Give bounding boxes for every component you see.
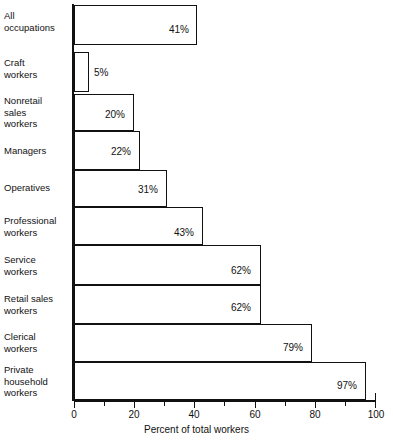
bar-craft-workers bbox=[74, 52, 89, 92]
category-label-retail-sales-workers: Retail sales workers bbox=[4, 293, 70, 316]
x-axis-tick-10 bbox=[104, 401, 105, 406]
x-axis-title: Percent of total workers bbox=[0, 424, 393, 435]
category-label-clerical-workers: Clerical workers bbox=[4, 331, 70, 354]
bar-value-clerical-workers: 79% bbox=[283, 343, 303, 353]
bar-value-managers: 22% bbox=[111, 147, 131, 157]
x-axis-tick-30 bbox=[164, 401, 165, 406]
bar-value-all-occupations: 41% bbox=[169, 25, 189, 35]
horizontal-bar-chart: All occupations Craft workers Nonretail … bbox=[0, 0, 393, 440]
category-label-private-household-workers: Private household workers bbox=[4, 364, 70, 399]
x-axis-tick-label-80: 80 bbox=[300, 409, 330, 420]
bar-value-operatives: 31% bbox=[138, 185, 158, 195]
bar-value-craft-workers: 5% bbox=[94, 68, 108, 78]
bar-private-household-workers bbox=[74, 362, 366, 400]
x-axis-tick-90 bbox=[345, 401, 346, 406]
bar-professional-workers bbox=[74, 207, 203, 245]
x-axis-tick-label-100: 100 bbox=[361, 409, 391, 420]
plot-area: 41% 5% 20% 22% 31% 43% 62% 62% 79% 97% bbox=[74, 0, 375, 400]
category-label-operatives: Operatives bbox=[4, 182, 70, 194]
x-axis-tick-50 bbox=[224, 401, 225, 406]
bar-value-retail-sales-workers: 62% bbox=[231, 303, 251, 313]
x-axis-tick-80 bbox=[315, 401, 316, 408]
x-axis-tick-60 bbox=[255, 401, 256, 408]
category-label-professional-workers: Professional workers bbox=[4, 215, 70, 238]
category-label-service-workers: Service workers bbox=[4, 254, 70, 277]
category-label-nonretail-sales-workers: Nonretail sales workers bbox=[4, 95, 70, 130]
bar-value-private-household-workers: 97% bbox=[337, 381, 357, 391]
category-label-managers: Managers bbox=[4, 145, 70, 157]
x-axis-tick-label-40: 40 bbox=[179, 409, 209, 420]
x-axis-tick-label-0: 0 bbox=[59, 409, 89, 420]
x-axis-tick-40 bbox=[194, 401, 195, 408]
bar-value-service-workers: 62% bbox=[231, 266, 251, 276]
x-axis-tick-70 bbox=[285, 401, 286, 406]
x-axis-tick-20 bbox=[134, 401, 135, 408]
bar-clerical-workers bbox=[74, 324, 312, 362]
x-axis-tick-0 bbox=[74, 401, 75, 408]
x-axis-tick-label-20: 20 bbox=[119, 409, 149, 420]
x-axis-tick-label-60: 60 bbox=[240, 409, 270, 420]
bar-value-professional-workers: 43% bbox=[174, 228, 194, 238]
category-label-all-occupations: All occupations bbox=[4, 10, 70, 33]
bar-value-nonretail-sales-workers: 20% bbox=[105, 110, 125, 120]
category-label-craft-workers: Craft workers bbox=[4, 57, 70, 80]
x-axis-tick-100 bbox=[375, 401, 376, 408]
